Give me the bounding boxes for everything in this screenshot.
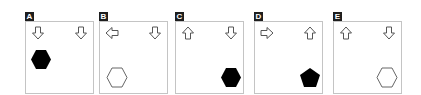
arrow-down-icon — [224, 26, 238, 40]
arrow-up-icon — [339, 26, 353, 40]
option-label: D — [254, 12, 263, 21]
option-label: A — [25, 12, 34, 21]
arrow-down-icon — [74, 26, 88, 40]
arrow-right-icon — [260, 26, 274, 40]
option-a[interactable]: A — [25, 12, 94, 92]
outline-hexagon-icon — [106, 67, 128, 88]
arrow-up-icon — [181, 26, 195, 40]
option-panel — [25, 21, 94, 94]
arrow-down-icon — [148, 26, 162, 40]
option-panel — [175, 21, 244, 94]
filled-pentagon-icon — [299, 67, 321, 88]
option-label: B — [99, 12, 108, 21]
option-b[interactable]: B — [99, 12, 168, 92]
option-e[interactable]: E — [333, 12, 402, 92]
option-panel — [99, 21, 168, 94]
arrow-left-icon — [105, 26, 119, 40]
option-label: C — [175, 12, 184, 21]
option-label: E — [333, 12, 342, 21]
option-d[interactable]: D — [254, 12, 323, 92]
filled-hexagon-icon — [30, 49, 52, 70]
arrow-down-icon — [382, 26, 396, 40]
filled-hexagon-icon — [220, 67, 242, 88]
option-panel — [254, 21, 323, 94]
option-c[interactable]: C — [175, 12, 244, 92]
option-panel — [333, 21, 402, 94]
arrow-down-icon — [31, 26, 45, 40]
arrow-up-icon — [303, 26, 317, 40]
outline-hexagon-icon — [376, 67, 398, 88]
